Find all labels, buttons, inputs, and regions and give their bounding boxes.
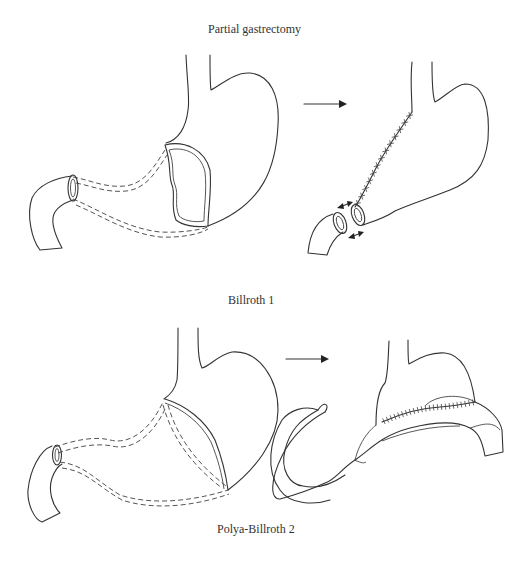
stitch-mark: [383, 418, 385, 424]
stitch-mark: [429, 405, 430, 411]
stitch-mark: [457, 402, 458, 408]
stitch-mark: [461, 402, 462, 408]
stitch-mark: [421, 406, 422, 412]
stitch-mark: [445, 404, 446, 410]
stitch-mark: [417, 407, 418, 413]
stitch-mark: [386, 417, 388, 423]
stitch-mark: [390, 415, 392, 421]
stitch-mark: [394, 414, 396, 420]
stitch-mark: [405, 410, 407, 416]
stitch-mark: [465, 401, 466, 407]
stitch-mark: [425, 406, 426, 412]
stitch-mark: [469, 400, 470, 406]
stitch-overlay: [0, 0, 530, 562]
stitch-mark: [402, 411, 404, 417]
stitch-mark: [449, 403, 450, 409]
stitch-mark: [433, 405, 434, 411]
stitch-mark: [413, 408, 414, 414]
stitch-mark: [398, 413, 400, 419]
stitch-mark: [453, 403, 454, 409]
stitch-mark: [472, 399, 473, 405]
stitch-mark: [409, 409, 411, 415]
